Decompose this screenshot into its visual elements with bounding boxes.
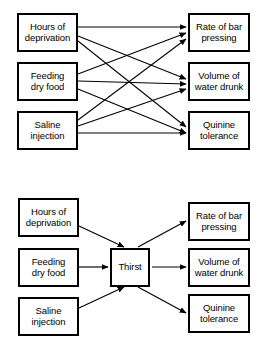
- edge-thirst-to-bar-pressing: [138, 221, 186, 247]
- node-label: Hours of deprivation: [25, 207, 72, 228]
- node-feeding-dry-food-2[interactable]: Feeding dry food: [18, 248, 79, 287]
- node-label: Quinine tolerance: [199, 303, 239, 324]
- node-label: Rate of bar pressing: [195, 211, 243, 232]
- node-label: Volume of water drunk: [194, 71, 245, 92]
- node-feeding-dry-food[interactable]: Feeding dry food: [17, 62, 78, 101]
- node-label: Rate of bar pressing: [195, 22, 243, 43]
- node-label: Feeding dry food: [31, 257, 67, 278]
- node-volume-of-water-drunk[interactable]: Volume of water drunk: [188, 62, 250, 101]
- edge-saline-to-thirst: [79, 287, 124, 308]
- node-label: Quinine tolerance: [199, 120, 239, 141]
- diagram-figure: Hours of deprivation Feeding dry food Sa…: [0, 0, 262, 344]
- edge-thirst-to-quinine: [138, 287, 186, 313]
- node-thirst[interactable]: Thirst: [110, 248, 150, 287]
- node-quinine-tolerance-2[interactable]: Quinine tolerance: [188, 294, 250, 333]
- node-volume-of-water-drunk-2[interactable]: Volume of water drunk: [188, 248, 250, 287]
- node-saline-injection-2[interactable]: Saline injection: [18, 297, 79, 336]
- edge-feeding-to-quinine: [78, 89, 186, 133]
- direct-connections-diagram: Hours of deprivation Feeding dry food Sa…: [0, 0, 262, 172]
- node-rate-of-bar-pressing[interactable]: Rate of bar pressing: [188, 13, 250, 52]
- node-hours-of-deprivation[interactable]: Hours of deprivation: [17, 13, 78, 52]
- edge-hours-to-thirst: [79, 226, 124, 247]
- node-label: Volume of water drunk: [194, 257, 245, 278]
- node-label: Thirst: [117, 262, 142, 273]
- node-quinine-tolerance[interactable]: Quinine tolerance: [188, 111, 250, 150]
- node-label: Saline injection: [30, 120, 66, 141]
- node-hours-of-deprivation-2[interactable]: Hours of deprivation: [18, 198, 79, 237]
- node-label: Feeding dry food: [30, 71, 66, 92]
- node-label: Saline injection: [31, 306, 67, 327]
- node-saline-injection[interactable]: Saline injection: [17, 111, 78, 150]
- intervening-variable-diagram: Hours of deprivation Feeding dry food Sa…: [0, 172, 262, 344]
- node-label: Hours of deprivation: [24, 22, 71, 43]
- edge-hours-to-water-drunk: [78, 36, 186, 79]
- node-rate-of-bar-pressing-2[interactable]: Rate of bar pressing: [188, 202, 250, 241]
